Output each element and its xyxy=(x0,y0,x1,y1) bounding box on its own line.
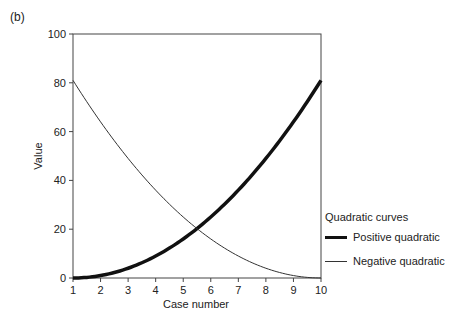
legend-label: Positive quadratic xyxy=(353,231,440,243)
legend-swatch-thick xyxy=(325,236,347,239)
legend-title: Quadratic curves xyxy=(325,211,445,223)
legend-item-positive: Positive quadratic xyxy=(325,231,445,243)
x-tick-label: 7 xyxy=(235,284,241,296)
x-tick-label: 8 xyxy=(263,284,269,296)
y-tick-label: 60 xyxy=(54,126,66,138)
legend-swatch-thin xyxy=(325,261,347,262)
legend: Quadratic curves Positive quadratic Nega… xyxy=(325,211,445,267)
y-axis-label: Value xyxy=(32,142,44,169)
x-tick-label: 2 xyxy=(97,284,103,296)
y-tick-label: 0 xyxy=(60,272,66,284)
x-axis-label: Case number xyxy=(163,298,229,310)
legend-item-negative: Negative quadratic xyxy=(325,255,445,267)
y-tick-label: 40 xyxy=(54,174,66,186)
y-tick-label: 80 xyxy=(54,77,66,89)
negative-quadratic-line xyxy=(73,80,321,278)
y-tick-label: 20 xyxy=(54,223,66,235)
line-chart: 02040608010012345678910 xyxy=(0,0,455,323)
x-tick-label: 5 xyxy=(180,284,186,296)
x-tick-label: 10 xyxy=(315,284,327,296)
x-tick-label: 3 xyxy=(125,284,131,296)
y-tick-label: 100 xyxy=(48,28,66,40)
x-tick-label: 9 xyxy=(290,284,296,296)
x-tick-label: 1 xyxy=(70,284,76,296)
x-tick-label: 4 xyxy=(153,284,159,296)
plot-frame xyxy=(73,34,321,278)
positive-quadratic-line xyxy=(73,80,321,278)
legend-label: Negative quadratic xyxy=(353,255,445,267)
x-tick-label: 6 xyxy=(208,284,214,296)
